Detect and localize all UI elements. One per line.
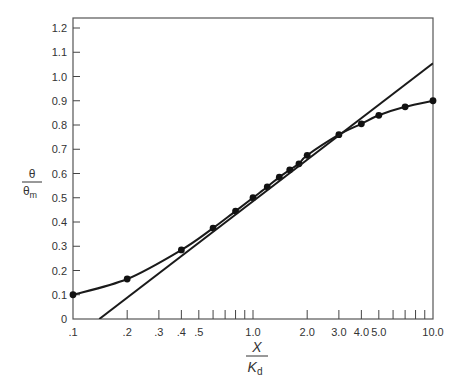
x-tick-label: .3 bbox=[154, 326, 163, 338]
plot-frame bbox=[73, 18, 433, 319]
y-tick-label: 0.7 bbox=[52, 143, 67, 155]
y-tick-label: 0.3 bbox=[52, 240, 67, 252]
data-point bbox=[178, 246, 185, 253]
y-tick-label: 0.4 bbox=[52, 216, 67, 228]
y-axis-title-numerator: θ bbox=[29, 167, 36, 181]
y-tick-label: 1.0 bbox=[52, 71, 67, 83]
x-tick-label: .4 bbox=[177, 326, 186, 338]
y-axis-title: θ θm bbox=[22, 167, 42, 200]
y-tick-label: 0.8 bbox=[52, 119, 67, 131]
x-tick-label: 1.0 bbox=[245, 326, 260, 338]
y-axis: 00.10.20.30.40.50.60.70.80.91.01.11.2 bbox=[52, 22, 80, 325]
data-point bbox=[358, 120, 365, 127]
x-tick-label: 2.0 bbox=[300, 326, 315, 338]
data-point bbox=[124, 276, 131, 283]
data-point bbox=[70, 291, 77, 298]
y-tick-label: 0.1 bbox=[52, 289, 67, 301]
plot-series bbox=[70, 63, 437, 319]
y-tick-label: 0.2 bbox=[52, 265, 67, 277]
x-tick-label: 3.0 bbox=[331, 326, 346, 338]
x-axis-title-numerator: X bbox=[251, 339, 262, 355]
data-point bbox=[375, 112, 382, 119]
x-axis-title: X Kd bbox=[246, 339, 268, 377]
x-tick-label: 4.0 bbox=[354, 326, 369, 338]
y-tick-label: 0.6 bbox=[52, 168, 67, 180]
y-tick-label: 0 bbox=[61, 313, 67, 325]
fit-line bbox=[99, 63, 433, 319]
x-tick-label: .2 bbox=[123, 326, 132, 338]
chart: 00.10.20.30.40.50.60.70.80.91.01.11.2 .1… bbox=[0, 0, 462, 387]
x-axis: .1.2.3.4.51.02.03.04.05.010.0 bbox=[68, 310, 443, 338]
y-tick-label: 0.5 bbox=[52, 192, 67, 204]
x-tick-label: 5.0 bbox=[371, 326, 386, 338]
y-tick-label: 0.9 bbox=[52, 95, 67, 107]
data-point bbox=[402, 103, 409, 110]
data-point bbox=[430, 97, 437, 104]
y-axis-title-denominator: θm bbox=[23, 184, 37, 200]
y-tick-label: 1.1 bbox=[52, 46, 67, 58]
x-tick-label: .1 bbox=[68, 326, 77, 338]
x-axis-title-denominator: Kd bbox=[248, 359, 263, 377]
y-tick-label: 1.2 bbox=[52, 22, 67, 34]
x-tick-label: 10.0 bbox=[422, 326, 443, 338]
x-tick-label: .5 bbox=[194, 326, 203, 338]
